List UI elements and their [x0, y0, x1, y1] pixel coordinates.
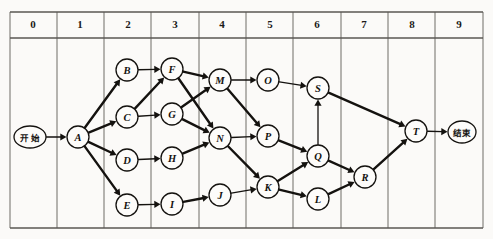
column-header-8: 8	[409, 18, 415, 30]
terminal-node-end[interactable]: 结束	[448, 121, 476, 143]
node-label-E: E	[122, 200, 130, 211]
node-label-R: R	[360, 172, 368, 183]
node-G[interactable]: G	[161, 103, 183, 125]
edge-O-to-S	[279, 82, 301, 86]
arrowhead-M-to-O	[250, 76, 256, 83]
arrowhead-B-to-F	[154, 66, 160, 73]
node-T[interactable]: T	[405, 120, 427, 142]
arrowhead-I-to-J	[202, 195, 209, 202]
node-B[interactable]: B	[116, 59, 138, 81]
edge-C-to-F	[135, 81, 161, 109]
node-label-J: J	[216, 190, 223, 201]
edge-M-to-P	[227, 89, 257, 124]
arrowhead-K-to-L	[300, 191, 307, 198]
arrowhead-D-to-H	[154, 155, 160, 162]
node-S[interactable]: S	[307, 77, 329, 99]
node-N[interactable]: N	[209, 127, 231, 149]
column-header-4: 4	[219, 18, 225, 30]
arrowhead-T-to-end	[441, 128, 447, 135]
edge-S-to-T	[329, 93, 401, 125]
edge-N-to-P	[231, 137, 251, 138]
edge-F-to-N	[179, 78, 211, 124]
column-header-2: 2	[125, 18, 131, 30]
diagram-root: 0123456789 ABCDEFGHIMNJOPKSQLRT开 始结束	[0, 0, 493, 239]
edge-A-to-D	[88, 142, 112, 153]
edge-F-to-M	[183, 72, 204, 77]
diagram-canvas: 0123456789 ABCDEFGHIMNJOPKSQLRT开 始结束	[0, 0, 493, 239]
node-D[interactable]: D	[116, 149, 138, 171]
arrowhead-J-to-K	[250, 186, 257, 193]
edge-R-to-T	[374, 142, 404, 169]
node-label-S: S	[315, 83, 321, 94]
arrowhead-C-to-G	[154, 112, 160, 119]
edge-layer	[47, 66, 448, 208]
node-label-L: L	[314, 194, 321, 205]
column-header-5: 5	[267, 18, 273, 30]
arrowhead-F-to-M	[202, 73, 209, 80]
node-A[interactable]: A	[67, 126, 89, 148]
column-header-7: 7	[361, 18, 367, 30]
node-K[interactable]: K	[257, 176, 279, 198]
edge-G-to-N	[182, 119, 205, 130]
arrowhead-O-to-S	[300, 82, 307, 89]
node-I[interactable]: I	[161, 193, 183, 215]
terminal-node-start[interactable]: 开 始	[14, 126, 46, 148]
node-label-F: F	[167, 64, 175, 75]
terminal-label-start: 开 始	[20, 133, 40, 143]
node-O[interactable]: O	[257, 69, 279, 91]
column-header-0: 0	[30, 18, 36, 30]
node-M[interactable]: M	[209, 69, 231, 91]
edge-G-to-M	[181, 90, 206, 108]
edge-P-to-Q	[279, 140, 303, 150]
arrowhead-N-to-P	[250, 133, 256, 140]
node-P[interactable]: P	[257, 125, 279, 147]
node-label-C: C	[123, 112, 131, 123]
edge-K-to-Q	[278, 165, 304, 181]
node-J[interactable]: J	[209, 184, 231, 206]
node-label-Q: Q	[314, 151, 322, 162]
node-label-D: D	[122, 155, 131, 166]
edge-Q-to-R	[328, 161, 349, 171]
grid-layer	[10, 12, 483, 228]
node-Q[interactable]: Q	[307, 145, 329, 167]
node-L[interactable]: L	[307, 188, 329, 210]
node-label-O: O	[264, 75, 272, 86]
edge-A-to-C	[89, 123, 112, 132]
edge-K-to-L	[279, 190, 302, 195]
arrowhead-E-to-I	[154, 201, 160, 208]
node-label-G: G	[168, 109, 176, 120]
column-header-9: 9	[456, 18, 462, 30]
edge-L-to-R	[328, 184, 350, 194]
node-label-T: T	[413, 126, 420, 137]
node-label-M: M	[214, 75, 225, 86]
node-label-K: K	[263, 182, 272, 193]
arrowhead-Q-to-S	[314, 100, 321, 106]
arrowhead-start-to-A	[60, 133, 66, 140]
node-E[interactable]: E	[116, 194, 138, 216]
edge-J-to-K	[231, 190, 251, 193]
node-label-N: N	[215, 133, 224, 144]
node-label-H: H	[167, 153, 177, 164]
node-H[interactable]: H	[161, 147, 183, 169]
node-C[interactable]: C	[116, 106, 138, 128]
column-header-6: 6	[314, 18, 320, 30]
column-header-1: 1	[77, 18, 83, 30]
edge-I-to-J	[183, 198, 203, 202]
edge-D-to-H	[138, 159, 155, 160]
terminal-label-end: 结束	[453, 128, 471, 138]
edge-C-to-G	[138, 115, 155, 116]
node-label-A: A	[73, 132, 81, 143]
node-R[interactable]: R	[354, 166, 376, 188]
edge-H-to-N	[183, 144, 205, 153]
node-F[interactable]: F	[161, 58, 183, 80]
edge-N-to-K	[228, 146, 256, 175]
column-header-3: 3	[172, 18, 178, 30]
node-label-P: P	[265, 131, 272, 142]
node-label-B: B	[122, 65, 130, 76]
